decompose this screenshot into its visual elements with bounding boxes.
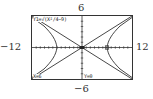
trace-x-value: X=6	[33, 74, 41, 79]
window-ymax-label: 6	[78, 3, 84, 13]
calculator-graph-screen[interactable]: Y1=√(X²/4−9) X=6 Y=0	[31, 15, 133, 80]
window-ymin-label: −6	[74, 84, 89, 94]
graph-plot	[32, 16, 132, 79]
origin-marker	[80, 46, 85, 49]
trace-y-value: Y=0	[84, 74, 92, 79]
equation-label: Y1=√(X²/4−9)	[33, 17, 67, 22]
window-xmax-label: 12	[136, 42, 149, 52]
window-xmin-label: −12	[0, 42, 21, 52]
